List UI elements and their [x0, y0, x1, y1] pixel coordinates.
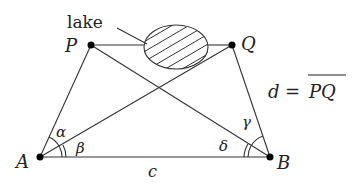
angle-arc-delta-2 — [244, 144, 248, 157]
point-p — [88, 42, 95, 49]
angle-label-beta: β — [75, 139, 85, 157]
formula-lhs: d — [268, 81, 280, 102]
edge-aq — [40, 45, 232, 157]
lake-leader-line — [117, 28, 147, 44]
point-a — [37, 154, 44, 161]
angle-label-gamma: γ — [242, 113, 251, 131]
label-q: Q — [241, 33, 256, 54]
angle-label-delta: δ — [219, 137, 228, 155]
angle-arc-gamma — [251, 136, 263, 146]
angle-arc-beta-2 — [63, 145, 66, 157]
label-p: P — [64, 35, 78, 56]
angle-arc-beta-1 — [60, 147, 62, 157]
edge-bq — [232, 45, 270, 157]
point-b — [267, 154, 274, 161]
label-b: B — [276, 152, 290, 173]
angle-arc-delta-1 — [248, 146, 251, 157]
distance-formula: d = PQ — [268, 75, 346, 102]
angle-label-alpha: α — [56, 123, 66, 141]
baseline-label-c: c — [148, 162, 157, 181]
label-a: A — [14, 151, 29, 172]
point-q — [229, 42, 236, 49]
lake-label: lake — [67, 12, 103, 32]
diagram-canvas: lake A B P Q α β γ δ c d = PQ — [0, 0, 359, 190]
formula-equals: = — [285, 81, 300, 102]
formula-rhs: PQ — [308, 81, 336, 102]
